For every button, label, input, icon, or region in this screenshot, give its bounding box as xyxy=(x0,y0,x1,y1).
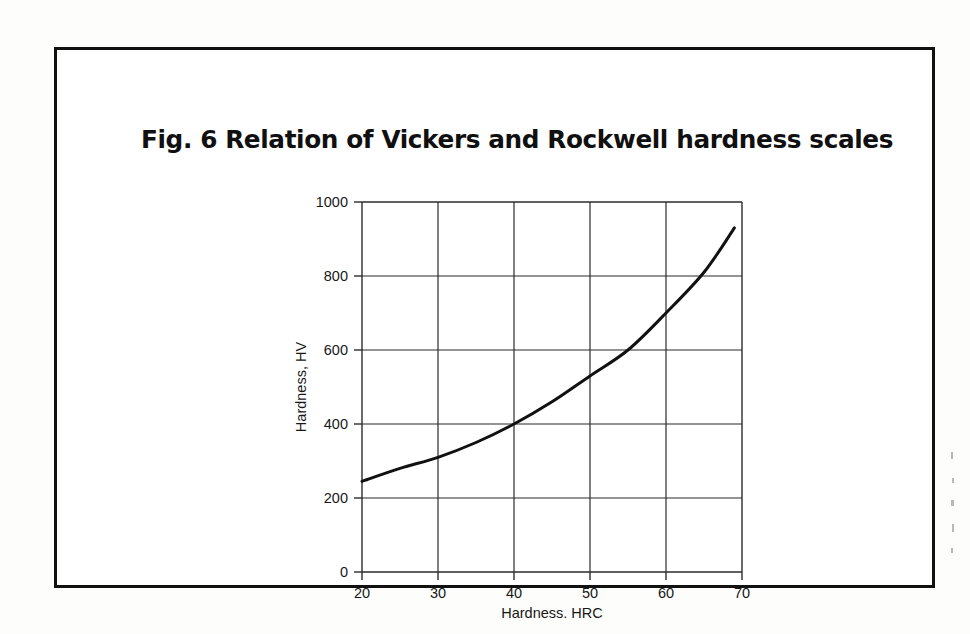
grid-lines xyxy=(362,202,742,572)
x-tick-label: 60 xyxy=(658,585,674,601)
y-tick-label: 0 xyxy=(340,564,348,580)
y-tick-labels: 1000 800 600 400 200 0 xyxy=(316,194,348,580)
y-tick-label: 800 xyxy=(324,268,348,284)
scan-speckle xyxy=(951,500,954,506)
y-axis-title: Hardness, HV xyxy=(293,342,309,433)
x-tick-labels: 20 30 40 50 60 70 xyxy=(354,585,750,601)
y-tick-label: 600 xyxy=(324,342,348,358)
scanned-page: Fig. 6 Relation of Vickers and Rockwell … xyxy=(0,0,970,634)
x-tick-label: 70 xyxy=(734,585,750,601)
figure-title: Fig. 6 Relation of Vickers and Rockwell … xyxy=(141,124,917,154)
chart-plot-area: 1000 800 600 400 200 0 20 30 40 50 60 70 xyxy=(272,188,772,618)
scan-speckle xyxy=(951,548,953,553)
hardness-conversion-chart: 1000 800 600 400 200 0 20 30 40 50 60 70 xyxy=(272,188,772,618)
x-tick-label: 20 xyxy=(354,585,370,601)
tick-marks xyxy=(354,202,742,580)
hardness-curve xyxy=(362,228,734,481)
scan-speckle xyxy=(952,524,954,532)
y-tick-label: 400 xyxy=(324,416,348,432)
figure-frame: Fig. 6 Relation of Vickers and Rockwell … xyxy=(54,47,935,588)
x-tick-label: 40 xyxy=(506,585,522,601)
scan-speckle xyxy=(951,452,953,459)
x-tick-label: 50 xyxy=(582,585,598,601)
x-axis-title: Hardness, HRC xyxy=(501,605,603,618)
y-tick-label: 1000 xyxy=(316,194,348,210)
y-tick-label: 200 xyxy=(324,490,348,506)
x-tick-label: 30 xyxy=(430,585,446,601)
scan-speckle xyxy=(952,478,954,483)
